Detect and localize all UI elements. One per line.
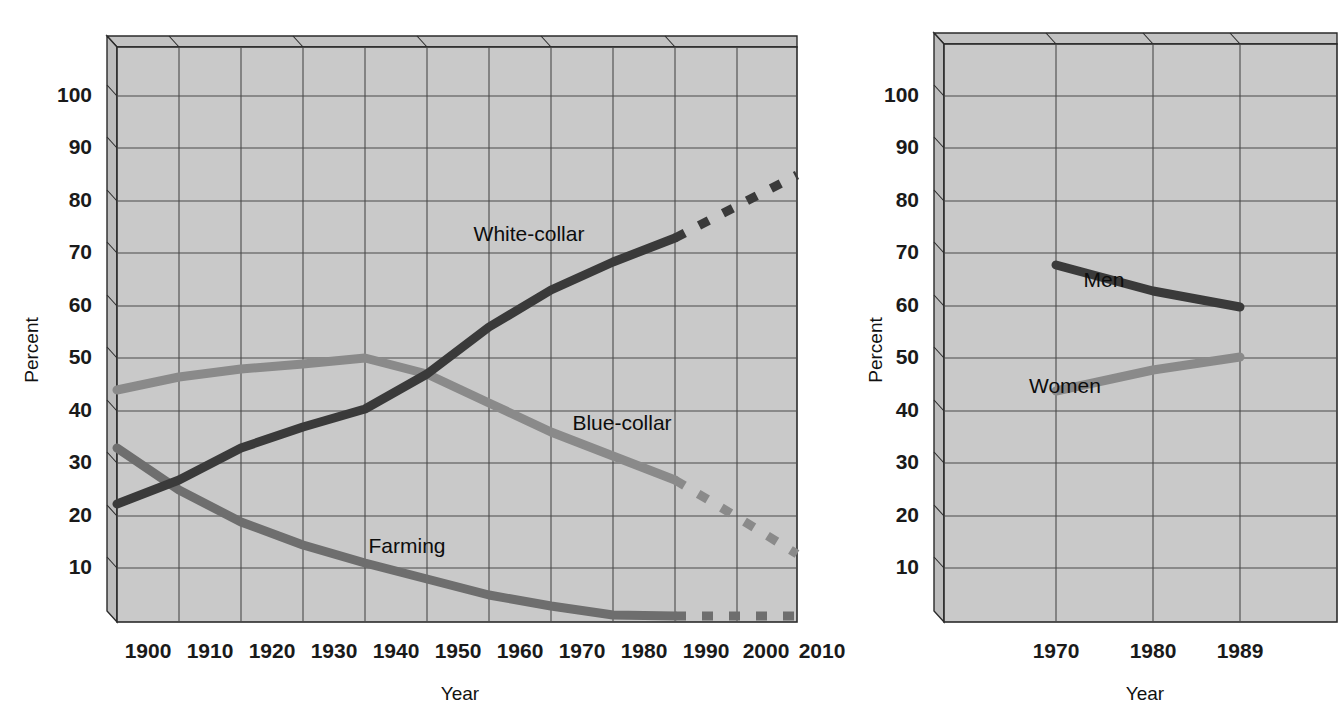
- x-tick-label: 1940: [373, 639, 420, 662]
- x-tick-label: 1900: [125, 639, 172, 662]
- x-tick-label: 1990: [683, 639, 730, 662]
- x-tick-label: 2010: [799, 639, 846, 662]
- series-label-white-collar: White-collar: [474, 222, 585, 245]
- y-tick-label: 80: [896, 188, 919, 211]
- y-tick-label: 30: [896, 450, 919, 473]
- y-tick-label: 50: [896, 345, 919, 368]
- y-tick-label: 80: [69, 188, 92, 211]
- occupation-composition-chart: White-collar Blue-collar Farming 100 90 …: [0, 0, 900, 723]
- y-tick-label: 20: [896, 503, 919, 526]
- left-chart-svg: White-collar Blue-collar Farming 100 90 …: [0, 0, 900, 723]
- y-tick-label: 100: [884, 83, 919, 106]
- y-tick-label: 60: [896, 293, 919, 316]
- right-chart-svg: Men Women 100 90 80 70 60 50 40 30 20 10…: [860, 0, 1344, 723]
- y-tick-label: 40: [69, 398, 92, 421]
- x-tick-label: 1970: [559, 639, 606, 662]
- plot-left-face: [107, 36, 117, 622]
- plot-top-face: [934, 33, 1337, 44]
- x-axis-title: Year: [441, 683, 480, 704]
- y-tick-label: 100: [57, 83, 92, 106]
- y-tick-label: 50: [69, 345, 92, 368]
- y-tick-label: 70: [896, 240, 919, 263]
- series-label-farming: Farming: [368, 534, 445, 557]
- y-tick-label: 40: [896, 398, 919, 421]
- plot-area: [944, 44, 1337, 622]
- x-axis-title: Year: [1126, 683, 1165, 704]
- x-tick-label: 1970: [1033, 639, 1080, 662]
- x-tick-label: 1980: [1130, 639, 1177, 662]
- series-label-blue-collar: Blue-collar: [572, 411, 671, 434]
- x-tick-label: 1980: [621, 639, 668, 662]
- y-tick-label: 60: [69, 293, 92, 316]
- y-tick-label: 70: [69, 240, 92, 263]
- series-label-women: Women: [1029, 374, 1101, 397]
- labor-force-by-sex-chart: Men Women 100 90 80 70 60 50 40 30 20 10…: [860, 0, 1344, 723]
- x-tick-label: 1930: [311, 639, 358, 662]
- y-tick-label: 90: [69, 135, 92, 158]
- plot-area: [117, 47, 797, 622]
- y-tick-label: 10: [69, 555, 92, 578]
- plot-top-face: [107, 36, 797, 47]
- x-tick-label: 1960: [497, 639, 544, 662]
- x-tick-label: 2000: [743, 639, 790, 662]
- y-axis-title: Percent: [865, 317, 886, 383]
- y-tick-label: 90: [896, 135, 919, 158]
- series-label-men: Men: [1084, 268, 1125, 291]
- y-tick-label: 20: [69, 503, 92, 526]
- y-tick-label: 30: [69, 450, 92, 473]
- y-axis-title: Percent: [21, 317, 42, 383]
- x-tick-label: 1910: [187, 639, 234, 662]
- y-tick-label: 10: [896, 555, 919, 578]
- x-tick-label: 1989: [1217, 639, 1264, 662]
- x-tick-label: 1920: [249, 639, 296, 662]
- x-tick-label: 1950: [435, 639, 482, 662]
- plot-left-face: [934, 33, 944, 622]
